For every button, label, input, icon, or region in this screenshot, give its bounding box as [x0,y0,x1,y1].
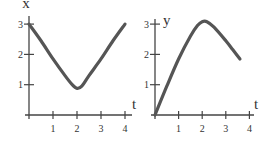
x-tick-label: 3 [223,123,228,134]
y-tick-label: 1 [18,79,23,90]
x-axis-label: t [132,96,137,112]
x-tick-label: 3 [99,123,104,134]
x-tick-label: 1 [176,123,181,134]
x-tick-label: 2 [75,123,80,134]
y-tick-label: 3 [18,19,23,30]
x-tick-label: 2 [200,123,205,134]
x-tick-label: 4 [247,123,252,134]
plot-y-vs-t: 1234123ty [144,12,259,134]
x-tick-label: 4 [123,123,128,134]
x-axis-label: t [254,96,259,112]
y-tick-label: 3 [144,19,149,30]
x-tick-label: 1 [51,123,56,134]
y-axis-label: y [163,12,171,28]
y-tick-label: 1 [144,79,149,90]
y-tick-label: 2 [144,49,149,60]
two-line-plots: 1234123tx 1234123ty [0,0,271,149]
plot-x-vs-t: 1234123tx [18,0,137,134]
series-line-xt [29,24,125,88]
y-tick-label: 2 [18,49,23,60]
y-axis-label: x [22,0,30,11]
series-line-yt [155,21,240,115]
